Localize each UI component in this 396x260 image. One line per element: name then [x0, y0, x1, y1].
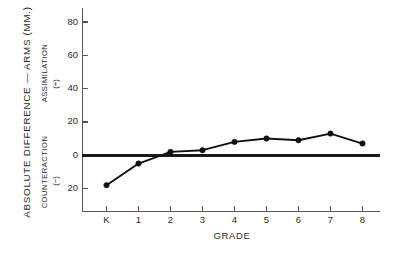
data-point: [296, 138, 301, 143]
y-tick-label-20: 20: [67, 115, 78, 126]
x-tick-label-K: K: [103, 214, 110, 225]
x-tick-label-2: 2: [168, 214, 173, 225]
y-axis-lower-region-label: COUNTERACTION: [40, 136, 49, 209]
data-point: [328, 131, 333, 136]
y-tick-label-80: 80: [67, 16, 78, 27]
y-tick-label-40: 40: [67, 82, 78, 93]
x-tick-label-5: 5: [264, 214, 269, 225]
y-tick-label-60: 60: [67, 49, 78, 60]
y-axis-lower-sign-label: (−): [51, 176, 60, 186]
x-tick-label-1: 1: [136, 214, 141, 225]
data-point: [136, 161, 141, 166]
x-tick-label-4: 4: [232, 214, 237, 225]
data-point: [264, 136, 269, 141]
data-point: [168, 149, 173, 154]
y-axis-upper-region-label: ASSIMILATION: [40, 44, 49, 103]
chart-figure: 80 60 40 20 0 20 K 1 2 3 4 5 6 7 8 GRADE…: [0, 0, 396, 260]
y-axis-upper-sign-label: (+): [51, 79, 60, 89]
x-tick-label-3: 3: [200, 214, 205, 225]
data-point: [200, 148, 205, 153]
x-axis-title: GRADE: [214, 230, 251, 241]
x-tick-label-7: 7: [328, 214, 333, 225]
y-axis-title: ABSOLUTE DIFFERENCE — ARMS (MM.): [21, 6, 32, 217]
data-series-markers: [104, 131, 365, 188]
data-point: [232, 139, 237, 144]
y-tick-label-minus20: 20: [67, 182, 78, 193]
x-tick-label-8: 8: [360, 214, 365, 225]
x-tick-label-6: 6: [296, 214, 301, 225]
line-chart-canvas: 80 60 40 20 0 20 K 1 2 3 4 5 6 7 8 GRADE…: [0, 0, 396, 260]
y-tick-label-0: 0: [73, 149, 78, 160]
data-point: [104, 182, 109, 187]
data-point: [360, 141, 365, 146]
